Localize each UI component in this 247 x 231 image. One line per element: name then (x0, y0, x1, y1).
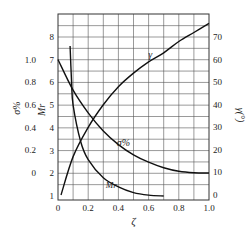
mr-tick-label: 6 (50, 77, 55, 87)
mr-tick-label: 3 (50, 146, 55, 156)
gamma-tick-label: 0 (213, 190, 218, 200)
mr-axis-label: Mr (36, 104, 47, 117)
mr-tick-label: 7 (50, 55, 55, 65)
x-tick-label: 0.4 (113, 203, 125, 213)
x-tick-label: 0 (56, 203, 61, 213)
mr-tick-label: 2 (50, 168, 55, 178)
gamma-curve-label: γ (148, 49, 153, 60)
sigma-axis-label: σ% (11, 101, 22, 114)
mr-tick-label: 8 (50, 32, 55, 42)
sigma-tick-label: 1.0 (25, 55, 37, 65)
gamma-tick-label: 50 (213, 77, 223, 87)
labels: 00.20.40.60.81.0ζ1234567800.20.40.60.81.… (11, 32, 246, 228)
x-tick-label: 1.0 (203, 203, 215, 213)
gamma-tick-label: 40 (213, 100, 223, 110)
x-axis-label: ζ (131, 215, 137, 228)
gamma-tick-label: 60 (213, 55, 223, 65)
mr-tick-label: 4 (50, 123, 55, 133)
sigma-tick-label: 0.8 (25, 77, 37, 87)
mr-curve-label: Mr (105, 180, 117, 190)
sigma-tick-label: 0 (32, 168, 37, 178)
series-γ (61, 23, 209, 195)
gamma-tick-label: 30 (213, 122, 223, 132)
gamma-axis-label: γ(°) (234, 108, 246, 123)
gamma-tick-label: 20 (213, 145, 223, 155)
mr-tick-label: 5 (50, 100, 55, 110)
sigma-tick-label: 0.4 (25, 123, 37, 133)
mr-tick-label: 1 (50, 191, 55, 201)
chart: 00.20.40.60.81.0ζ1234567800.20.40.60.81.… (0, 0, 247, 231)
sigma-tick-label: 0.2 (25, 145, 36, 155)
x-tick-label: 0.2 (83, 203, 94, 213)
x-tick-label: 0.8 (173, 203, 185, 213)
sigma-tick-label: 0.6 (25, 100, 37, 110)
x-tick-label: 0.6 (143, 203, 155, 213)
gamma-tick-label: 70 (213, 32, 223, 42)
sigma-curve-label: σ% (117, 137, 130, 148)
gamma-tick-label: 10 (213, 167, 223, 177)
